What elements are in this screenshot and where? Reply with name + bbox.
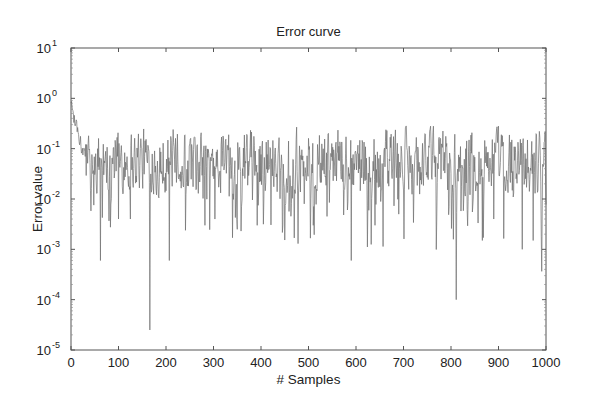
y-tick-exponent: -3: [52, 239, 60, 249]
y-tick-exponent: -2: [52, 189, 60, 199]
x-tick-label: 500: [298, 355, 320, 370]
y-tick-exponent: 0: [52, 88, 57, 98]
y-tick-exponent: -5: [52, 340, 60, 350]
plot-canvas: 0100200300400500600700800900100010-510-4…: [0, 0, 592, 406]
y-tick-label: 10: [37, 293, 51, 308]
error-series-line: [71, 102, 546, 330]
x-tick-label: 200: [155, 355, 177, 370]
x-tick-label: 0: [67, 355, 74, 370]
x-tick-label: 400: [250, 355, 272, 370]
x-tick-label: 900: [488, 355, 510, 370]
x-tick-label: 1000: [532, 355, 561, 370]
y-tick-label: 10: [37, 41, 51, 56]
error-curve-chart: Error curve # Samples Error value 010020…: [0, 0, 592, 406]
chart-title: Error curve: [276, 24, 340, 39]
x-tick-label: 700: [393, 355, 415, 370]
y-tick-label: 10: [37, 142, 51, 157]
error-line: [71, 102, 546, 330]
y-tick-label: 10: [37, 91, 51, 106]
y-tick-label: 10: [37, 343, 51, 358]
y-axis-label: Error value: [30, 166, 45, 232]
x-tick-label: 300: [203, 355, 225, 370]
y-tick-exponent: -1: [52, 139, 60, 149]
x-tick-label: 800: [440, 355, 462, 370]
plot-frame: [71, 48, 546, 350]
x-axis-label: # Samples: [277, 372, 341, 387]
y-tick-label: 10: [37, 242, 51, 257]
x-tick-label: 600: [345, 355, 367, 370]
y-tick-exponent: 1: [52, 38, 57, 48]
x-tick-label: 100: [108, 355, 130, 370]
y-tick-exponent: -4: [52, 290, 60, 300]
